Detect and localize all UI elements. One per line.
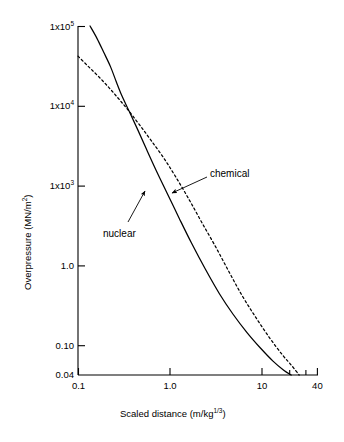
- y-tick-label-0-04: 0.04: [56, 370, 75, 380]
- curve-nuclear: [90, 26, 291, 375]
- data-curves: [78, 26, 299, 375]
- curve-chemical: [78, 56, 299, 375]
- y-axis-title: Overpressure (MN/m2): [22, 195, 33, 290]
- annotation-chemical: chemical: [210, 168, 249, 179]
- x-tick-label-0-1: 0.1: [72, 381, 85, 391]
- chart-figure: 1x105 1x104 1x103 1.0 0.10 0.04 0.1 1.0 …: [0, 0, 344, 442]
- x-tick-label-10: 10: [257, 381, 268, 391]
- leader-line-nuclear: [128, 191, 145, 222]
- y-tick-label-1e4: 1x104: [50, 102, 74, 112]
- x-tick-label-1-0: 1.0: [163, 381, 176, 391]
- axis-spines: [78, 26, 318, 375]
- y-axis-ticks: [78, 27, 85, 346]
- x-axis-title: Scaled distance (m/kg1/3): [120, 408, 226, 419]
- x-tick-label-40: 40: [312, 381, 323, 391]
- y-tick-label-0-10: 0.10: [56, 341, 75, 351]
- y-tick-label-1: 1.0: [61, 261, 74, 271]
- annotation-nuclear: nuclear: [103, 228, 136, 239]
- chart-plot-area: [0, 0, 344, 442]
- annotation-leaders: [128, 177, 207, 222]
- y-tick-label-1e3: 1x103: [50, 181, 74, 191]
- y-tick-label-1e5: 1x105: [50, 22, 74, 32]
